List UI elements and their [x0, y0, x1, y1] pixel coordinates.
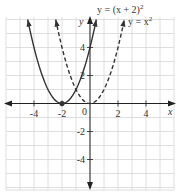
y-tick-label: -4 — [77, 154, 85, 165]
y-tick-label: -2 — [77, 126, 85, 137]
x-tick-label: -2 — [58, 108, 66, 119]
legend-base-parabola-text: y = x — [128, 16, 149, 27]
x-tick-label: 4 — [144, 108, 149, 119]
labels: x y 0 y = (x + 2)2 y = x2 — [78, 3, 173, 117]
legend-base-parabola: y = x2 — [128, 15, 153, 27]
x-tick-label: -4 — [30, 108, 38, 119]
origin-label: 0 — [82, 106, 87, 117]
y-axis-label: y — [78, 16, 84, 27]
legend-shifted-parabola-exp: 2 — [140, 3, 144, 11]
x-tick-label: 2 — [116, 108, 121, 119]
y-tick-label: 2 — [80, 70, 85, 81]
y-axis-up-arrow-icon — [87, 16, 93, 24]
x-axis-left-arrow-icon — [4, 101, 12, 107]
legend-shifted-parabola: y = (x + 2)2 — [97, 3, 144, 16]
curve-arrow-icon — [120, 20, 125, 27]
vertex-point — [59, 101, 64, 106]
legend-shifted-parabola-text: y = (x + 2) — [97, 4, 140, 16]
parabola-graph: x y 0 y = (x + 2)2 y = x2 -4-224-4-224 — [0, 0, 179, 193]
x-axis-label: x — [167, 106, 173, 117]
y-tick-label: 4 — [80, 42, 85, 53]
legend-base-parabola-exp: 2 — [149, 15, 153, 23]
y-axis-down-arrow-icon — [87, 182, 93, 190]
